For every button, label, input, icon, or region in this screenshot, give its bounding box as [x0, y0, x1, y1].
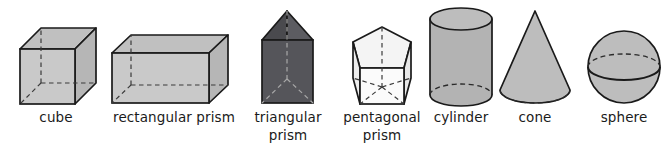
label-triangular-prism-line2: prism — [269, 127, 308, 143]
label-cylinder: cylinder — [434, 109, 489, 125]
solids-canvas: cube rectangular prism triangular prism … — [0, 0, 667, 150]
solid-pentagonal-prism — [353, 27, 411, 104]
cone-body — [500, 11, 570, 103]
sphere-body — [588, 31, 660, 103]
solid-cube — [20, 28, 96, 104]
cylinder-body — [430, 19, 492, 106]
solid-cone — [500, 11, 570, 103]
label-cone: cone — [519, 109, 552, 125]
label-triangular-prism-line1: triangular — [254, 109, 321, 125]
label-pentagonal-prism-line1: pentagonal — [343, 109, 420, 125]
solid-sphere — [588, 31, 660, 103]
solid-rectangular-prism — [112, 35, 228, 103]
solid-triangular-prism — [262, 11, 313, 103]
label-cube: cube — [39, 109, 72, 125]
triangular-prism-right-top-face — [287, 11, 313, 40]
rectangular-prism-front-face — [112, 53, 209, 103]
solid-cylinder — [430, 8, 492, 106]
label-pentagonal-prism-line2: prism — [363, 127, 402, 143]
rectangular-prism-top-face — [112, 35, 228, 53]
label-sphere: sphere — [601, 109, 648, 125]
cylinder-top-face — [430, 8, 492, 30]
triangular-prism-left-top-face — [262, 11, 287, 40]
label-rectangular-prism: rectangular prism — [113, 109, 235, 125]
solids-diagram: cube rectangular prism triangular prism … — [0, 0, 667, 150]
